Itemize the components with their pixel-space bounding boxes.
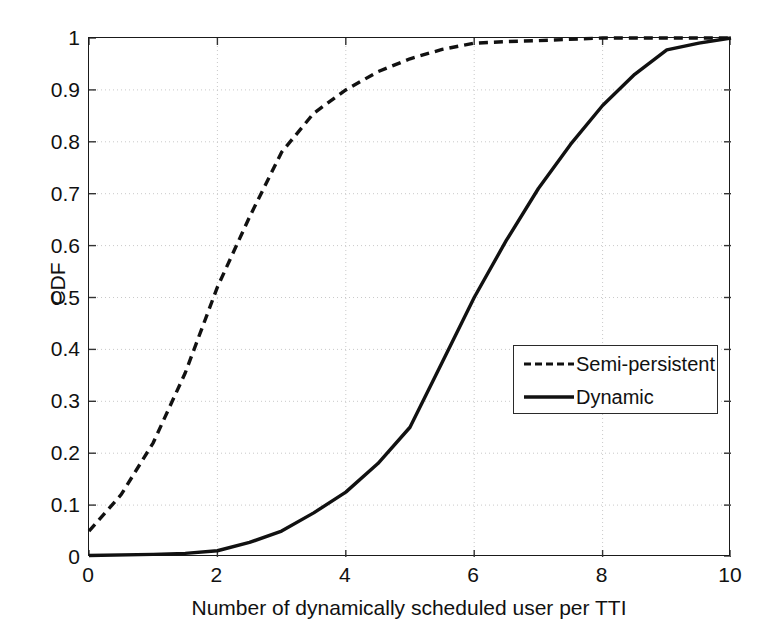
- y-tick-3: 0.3: [10, 390, 80, 411]
- series-dynamic: [89, 38, 731, 555]
- plot-area: [88, 37, 730, 556]
- x-tick-1: 2: [186, 564, 246, 585]
- y-tick-10: 1: [10, 27, 80, 48]
- y-tick-1: 0.1: [10, 494, 80, 515]
- cdf-chart-figure: 00.10.20.30.40.50.60.70.80.91 0246810 CD…: [0, 0, 766, 640]
- y-tick-9: 0.9: [10, 79, 80, 100]
- y-tick-8: 0.8: [10, 131, 80, 152]
- x-tick-0: 0: [58, 564, 118, 585]
- y-tick-7: 0.7: [10, 183, 80, 204]
- legend-swatch-solid-icon: [523, 390, 575, 404]
- y-axis-label: CDF: [46, 224, 70, 344]
- series-semi-persistent: [89, 38, 731, 531]
- y-tick-2: 0.2: [10, 442, 80, 463]
- legend-box: Semi-persistent Dynamic: [513, 345, 718, 414]
- x-tick-5: 10: [700, 564, 760, 585]
- legend-item-dynamic: Dynamic: [514, 380, 719, 414]
- legend-label-dynamic: Dynamic: [576, 387, 654, 407]
- x-tick-4: 8: [572, 564, 632, 585]
- data-series-layer: [89, 38, 731, 557]
- x-tick-2: 4: [315, 564, 375, 585]
- x-tick-3: 6: [443, 564, 503, 585]
- legend-label-semi-persistent: Semi-persistent: [576, 354, 715, 374]
- legend-item-semi-persistent: Semi-persistent: [514, 347, 719, 381]
- legend-swatch-dashed-icon: [523, 357, 575, 371]
- x-axis-label: Number of dynamically scheduled user per…: [88, 596, 730, 620]
